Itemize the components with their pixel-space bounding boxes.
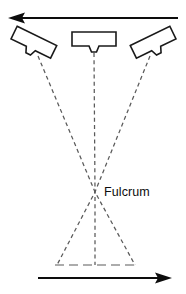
- diagram-canvas: Fulcrum: [0, 0, 186, 294]
- tube-center: [72, 32, 116, 52]
- tube-left-housing: [8, 26, 56, 63]
- ray-center: [94, 53, 95, 265]
- tomography-diagram: Fulcrum: [0, 0, 186, 294]
- fulcrum-label: Fulcrum: [104, 185, 150, 199]
- tube-right: [130, 26, 178, 63]
- tube-center-housing: [72, 32, 116, 52]
- beam-rays: [38, 53, 150, 265]
- film-travel-arrow: [38, 273, 172, 284]
- tube-left: [8, 26, 56, 63]
- ray-left: [38, 56, 135, 265]
- tube-right-housing: [130, 26, 178, 63]
- tube-travel-arrow: [8, 13, 178, 24]
- ray-right: [57, 56, 150, 265]
